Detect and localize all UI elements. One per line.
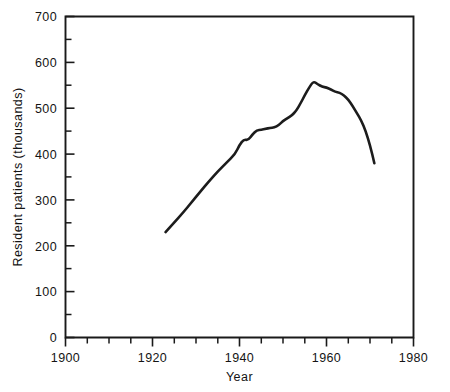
chart-figure: 0 100 200 300 400 500 600 700 (0, 0, 450, 392)
x-axis-ticks (66, 338, 414, 347)
y-axis-ticks (66, 17, 75, 338)
y-axis-tick-labels: 0 100 200 300 400 500 600 700 (35, 10, 57, 345)
x-axis-tick-labels: 1900 1920 1940 1960 1980 (51, 351, 428, 365)
x-tick-label-1980: 1980 (399, 351, 428, 365)
line-chart-canvas: 0 100 200 300 400 500 600 700 (0, 0, 450, 392)
y-tick-label-500: 500 (35, 102, 57, 116)
y-tick-label-600: 600 (35, 56, 57, 70)
y-tick-label-0: 0 (50, 331, 57, 345)
x-tick-label-1920: 1920 (138, 351, 167, 365)
y-axis-title: Resident patients (thousands) (11, 87, 25, 266)
y-tick-label-300: 300 (35, 194, 57, 208)
x-tick-label-1900: 1900 (51, 351, 80, 365)
y-tick-label-100: 100 (35, 285, 57, 299)
x-tick-label-1940: 1940 (225, 351, 254, 365)
x-tick-label-1960: 1960 (312, 351, 341, 365)
data-series-resident-patients (166, 82, 375, 232)
plot-frame (66, 17, 414, 338)
y-tick-label-700: 700 (35, 10, 57, 24)
y-tick-label-400: 400 (35, 148, 57, 162)
axis-rectangle (66, 17, 414, 338)
x-axis-title: Year (226, 370, 253, 384)
y-tick-label-200: 200 (35, 240, 57, 254)
